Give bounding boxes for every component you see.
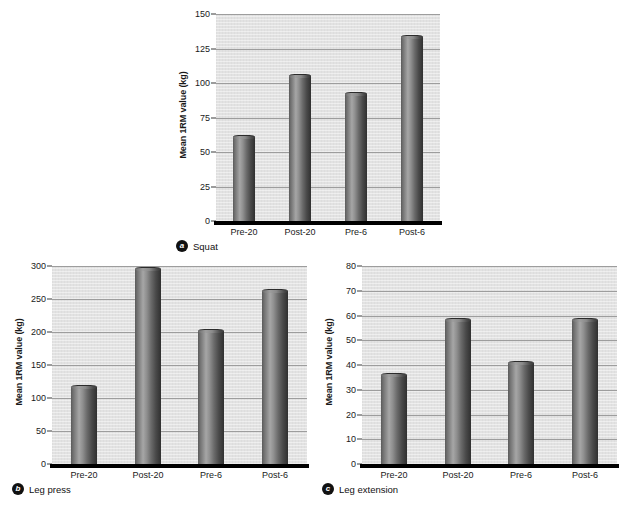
bar-cap bbox=[233, 135, 255, 139]
bar-cap bbox=[135, 267, 161, 271]
panel-caption-text: Leg extension bbox=[339, 484, 398, 495]
bar-series-squat bbox=[216, 14, 440, 221]
bar bbox=[345, 94, 367, 221]
bar bbox=[198, 331, 224, 464]
y-axis-tick-label: 50 bbox=[200, 148, 210, 157]
y-axis-tick-label: 0 bbox=[205, 217, 210, 226]
bar-cap bbox=[198, 329, 224, 333]
bar-series-leg-press bbox=[52, 266, 307, 464]
y-axis-title: Mean 1RM value (kg) bbox=[176, 8, 190, 222]
y-axis-tick-label: 25 bbox=[200, 182, 210, 191]
y-axis-tick-label: 150 bbox=[195, 10, 210, 19]
x-axis-baseline bbox=[214, 221, 442, 225]
x-axis-tick-label: Post-20 bbox=[284, 228, 315, 237]
y-axis-tick-label: 20 bbox=[346, 410, 356, 419]
y-axis-tick-label: 50 bbox=[36, 427, 46, 436]
y-axis-title-text: Mean 1RM value (kg) bbox=[14, 318, 24, 405]
y-axis-tick-label: 150 bbox=[31, 361, 46, 370]
y-axis-tick-label: 70 bbox=[346, 286, 356, 295]
x-axis-baseline bbox=[360, 464, 619, 468]
bar-cap bbox=[289, 74, 311, 78]
bar bbox=[289, 76, 311, 221]
x-axis-baseline bbox=[50, 464, 309, 468]
plot-area-squat bbox=[216, 14, 440, 221]
x-axis-tick-label: Pre-6 bbox=[510, 471, 532, 480]
figure-panel-squat: Mean 1RM value (kg) 0255075100125150 Pre… bbox=[176, 4, 446, 256]
bar bbox=[445, 320, 471, 464]
y-axis-tick-label: 80 bbox=[346, 262, 356, 271]
y-axis-tick-label: 0 bbox=[41, 460, 46, 469]
panel-badge-c: c bbox=[322, 483, 334, 495]
panel-caption-leg-press: b Leg press bbox=[12, 483, 71, 495]
x-axis-tick-label: Post-20 bbox=[442, 471, 473, 480]
y-axis-tick-label: 10 bbox=[346, 435, 356, 444]
y-axis-tick-label: 60 bbox=[346, 311, 356, 320]
bar bbox=[71, 387, 97, 464]
panel-caption-text: Squat bbox=[193, 241, 218, 252]
x-axis-tick-label: Post-6 bbox=[572, 471, 598, 480]
panel-caption-squat: a Squat bbox=[176, 240, 218, 252]
y-axis-title: Mean 1RM value (kg) bbox=[322, 262, 336, 462]
bar-cap bbox=[381, 373, 407, 377]
y-axis-tick-label: 30 bbox=[346, 385, 356, 394]
y-axis-ticks: 0255075100125150 bbox=[190, 4, 216, 230]
y-axis-tick-label: 250 bbox=[31, 295, 46, 304]
x-axis-tick-label: Pre-20 bbox=[230, 228, 257, 237]
x-axis-tick-label: Pre-6 bbox=[345, 228, 367, 237]
bar-cap bbox=[572, 318, 598, 322]
y-axis-tick-label: 50 bbox=[346, 336, 356, 345]
panel-caption-text: Leg press bbox=[29, 484, 71, 495]
bar bbox=[262, 291, 288, 464]
plot-area-leg-extension bbox=[362, 266, 617, 464]
bar bbox=[135, 269, 161, 464]
chart-squat: Mean 1RM value (kg) 0255075100125150 Pre… bbox=[176, 4, 446, 230]
y-axis-tick-label: 100 bbox=[31, 394, 46, 403]
x-axis-tick-label: Pre-6 bbox=[200, 471, 222, 480]
bar-cap bbox=[345, 92, 367, 96]
bar-cap bbox=[71, 385, 97, 389]
x-axis-tick-label: Post-6 bbox=[262, 471, 288, 480]
plot-area-leg-press bbox=[52, 266, 307, 464]
bar-cap bbox=[508, 361, 534, 365]
y-axis-tick-label: 0 bbox=[351, 460, 356, 469]
bar bbox=[508, 363, 534, 464]
y-axis-tick-label: 75 bbox=[200, 113, 210, 122]
x-axis-tick-label: Post-6 bbox=[399, 228, 425, 237]
bar-cap bbox=[401, 35, 423, 39]
x-axis-tick-label: Post-20 bbox=[132, 471, 163, 480]
y-axis-tick-label: 200 bbox=[31, 328, 46, 337]
figure-panel-leg-press: Mean 1RM value (kg) 050100150200250300 P… bbox=[12, 258, 312, 508]
panel-badge-a: a bbox=[176, 240, 188, 252]
bar bbox=[381, 375, 407, 464]
bar-series-leg-extension bbox=[362, 266, 617, 464]
y-axis-tick-label: 125 bbox=[195, 44, 210, 53]
bar-cap bbox=[445, 318, 471, 322]
bar-cap bbox=[262, 289, 288, 293]
x-axis-tick-label: Pre-20 bbox=[70, 471, 97, 480]
y-axis-tick-label: 300 bbox=[31, 262, 46, 271]
panel-caption-leg-extension: c Leg extension bbox=[322, 483, 398, 495]
bar bbox=[401, 37, 423, 221]
y-axis-ticks: 050100150200250300 bbox=[26, 258, 52, 472]
y-axis-ticks: 01020304050607080 bbox=[336, 258, 362, 472]
bar bbox=[572, 320, 598, 464]
chart-leg-extension: Mean 1RM value (kg) 01020304050607080 Pr… bbox=[322, 258, 622, 472]
y-axis-tick-label: 40 bbox=[346, 361, 356, 370]
y-axis-title-text: Mean 1RM value (kg) bbox=[324, 318, 334, 405]
x-axis-tick-label: Pre-20 bbox=[380, 471, 407, 480]
y-axis-title-text: Mean 1RM value (kg) bbox=[178, 71, 188, 158]
y-axis-title: Mean 1RM value (kg) bbox=[12, 262, 26, 462]
y-axis-tick-label: 100 bbox=[195, 79, 210, 88]
figure-panel-leg-extension: Mean 1RM value (kg) 01020304050607080 Pr… bbox=[322, 258, 622, 508]
bar bbox=[233, 137, 255, 221]
chart-leg-press: Mean 1RM value (kg) 050100150200250300 P… bbox=[12, 258, 312, 472]
panel-badge-b: b bbox=[12, 483, 24, 495]
